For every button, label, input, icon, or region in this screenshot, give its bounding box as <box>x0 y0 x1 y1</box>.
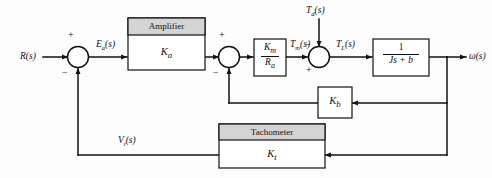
motor-numerator-subscript: m <box>270 46 276 55</box>
tachometer-voltage-label: Vt(s) <box>118 136 136 147</box>
plant-transfer-fraction: 1 Js + b <box>373 43 429 66</box>
load-torque-suffix: (s) <box>345 39 355 49</box>
summer2-minus-sign: − <box>213 68 219 78</box>
block-diagram-figure: R(s) Ea(s) Tm(s) Td(s) TL(s) ω(s) Vt(s) … <box>0 0 492 178</box>
motor-denominator-subscript: a <box>271 61 275 70</box>
output-signal-label: ω(s) <box>469 52 486 62</box>
summer2-plus-sign: + <box>219 30 225 40</box>
error-signal-suffix: (s) <box>105 39 115 49</box>
tachometer-block-header-label: Tachometer <box>219 128 325 137</box>
summing-junction-1 <box>68 47 89 68</box>
input-signal-label: R(s) <box>20 52 36 62</box>
plant-denominator: Js + b <box>373 56 429 66</box>
summer3-plus-sign: + <box>306 65 312 75</box>
load-torque-label: TL(s) <box>336 40 355 51</box>
back-emf-gain-label: Kb <box>318 96 352 109</box>
motor-gain-fraction: Km Ra <box>254 43 286 70</box>
amplifier-gain-subscript: a <box>168 50 172 60</box>
tach-voltage-suffix: (s) <box>126 135 136 145</box>
motor-gain-numerator: Km <box>254 43 286 55</box>
summing-junction-2 <box>219 47 240 68</box>
disturbance-label: Td(s) <box>306 6 325 17</box>
amplifier-gain-symbol: K <box>161 46 168 57</box>
summer1-plus-sign: + <box>68 30 74 40</box>
amplifier-gain-label: Ka <box>128 47 205 60</box>
error-signal-label: Ea(s) <box>96 40 115 51</box>
summer1-minus-sign: − <box>62 68 68 78</box>
tachometer-gain-label: Kt <box>219 149 325 162</box>
back-emf-gain-subscript: b <box>336 99 340 109</box>
amplifier-block-header-label: Amplifier <box>128 22 205 31</box>
summer3-minus-sign: − <box>305 40 311 50</box>
disturbance-suffix: (s) <box>315 5 325 15</box>
motor-gain-denominator: Ra <box>254 58 286 70</box>
plant-numerator: 1 <box>373 43 429 53</box>
tachometer-gain-subscript: t <box>274 152 276 162</box>
